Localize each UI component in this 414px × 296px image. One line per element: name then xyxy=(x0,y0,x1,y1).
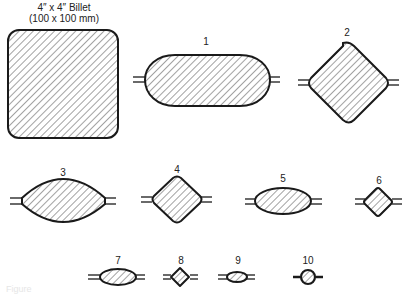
figure-caption: Figure xyxy=(6,284,32,294)
pass-6-diamond xyxy=(355,188,402,216)
roll-pass-sequence-diagram xyxy=(0,0,414,296)
pass-3-lens xyxy=(10,179,116,222)
pass-5-oval xyxy=(245,188,322,214)
pass-1-oval xyxy=(133,55,280,106)
pass-9-oval xyxy=(218,272,255,282)
pass-4-diamond xyxy=(141,177,212,223)
pass-10-round xyxy=(293,270,323,284)
billet-shape xyxy=(8,30,118,138)
pass-7-oval xyxy=(88,269,145,285)
pass-8-diamond xyxy=(163,268,198,286)
pass-2-diamond xyxy=(298,42,399,122)
